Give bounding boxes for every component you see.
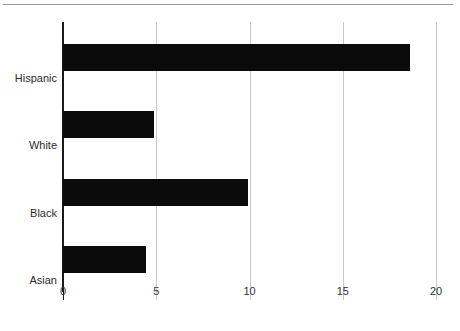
bar — [63, 111, 154, 138]
bar — [63, 44, 410, 71]
bar-chart-figure: 05101520 HispanicWhiteBlackAsian — [0, 0, 460, 331]
plot-area — [63, 22, 436, 292]
y-category-label: Hispanic — [15, 72, 57, 85]
x-tick-label: 5 — [136, 284, 176, 298]
gridline-20 — [436, 22, 437, 292]
y-category-label: Asian — [29, 274, 57, 287]
top-divider-rule — [3, 4, 453, 5]
x-tick-label: 20 — [416, 284, 456, 298]
bar — [63, 246, 146, 273]
x-tick-label: 10 — [230, 284, 270, 298]
y-category-label: White — [29, 139, 57, 152]
y-category-label: Black — [30, 207, 57, 220]
bar — [63, 179, 248, 206]
x-tick-label: 15 — [323, 284, 363, 298]
